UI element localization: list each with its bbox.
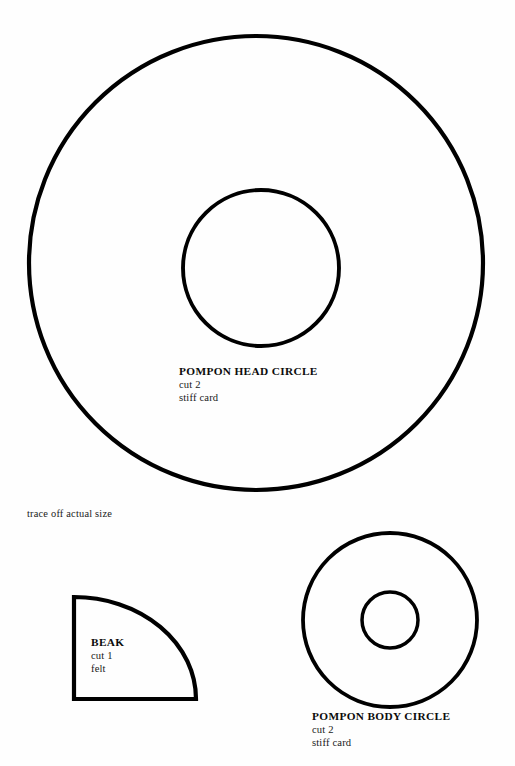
head-circle-inner-hole-outline bbox=[183, 190, 339, 346]
trace-instruction-note: trace off actual size bbox=[27, 508, 112, 519]
pompon-head-circle-title: POMPON HEAD CIRCLE bbox=[179, 365, 318, 379]
pompon-body-circle-material: stiff card bbox=[312, 737, 450, 750]
pompon-body-circle-quantity: cut 2 bbox=[312, 724, 450, 737]
beak-quantity: cut 1 bbox=[91, 650, 124, 663]
body-circle-inner-hole-outline bbox=[362, 592, 418, 648]
pompon-body-circle-label-block: POMPON BODY CIRCLE cut 2 stiff card bbox=[312, 710, 450, 750]
pompon-body-circle-title: POMPON BODY CIRCLE bbox=[312, 710, 450, 724]
beak-title: BEAK bbox=[91, 636, 124, 650]
pompon-head-circle-material: stiff card bbox=[179, 392, 318, 405]
pompon-head-circle-label-block: POMPON HEAD CIRCLE cut 2 stiff card bbox=[179, 365, 318, 405]
pompon-head-circle-quantity: cut 2 bbox=[179, 379, 318, 392]
beak-label-block: BEAK cut 1 felt bbox=[91, 636, 124, 676]
pompon-head-circle-shape bbox=[29, 36, 483, 490]
pompon-body-circle-shape bbox=[303, 533, 477, 707]
beak-material: felt bbox=[91, 663, 124, 676]
pattern-sheet: POMPON HEAD CIRCLE cut 2 stiff card trac… bbox=[0, 0, 515, 766]
